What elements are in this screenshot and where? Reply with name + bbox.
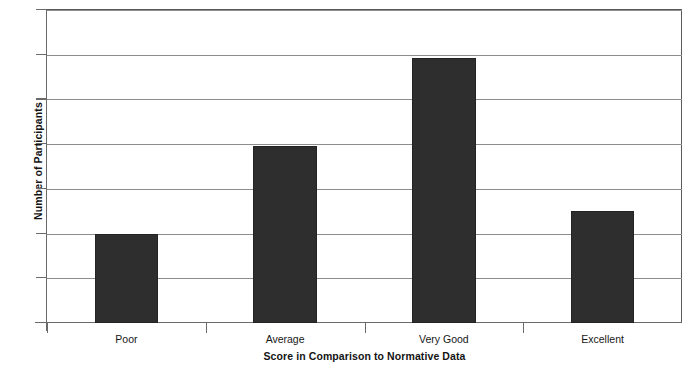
x-tick-label: Poor xyxy=(56,333,196,345)
y-tick-mark xyxy=(36,233,47,234)
y-tick-mark xyxy=(36,277,47,278)
x-tick-mark xyxy=(47,322,48,333)
bar xyxy=(412,58,476,323)
x-axis-title: Score in Comparison to Normative Data xyxy=(47,350,682,362)
gridline xyxy=(47,10,682,11)
y-tick-mark xyxy=(36,188,47,189)
gridline xyxy=(47,99,682,100)
y-tick-mark xyxy=(36,322,47,323)
bar-chart-figure: Number of Participants 02468101214 PoorA… xyxy=(0,0,688,368)
gridline xyxy=(47,144,682,145)
x-tick-mark xyxy=(206,322,207,333)
x-tick-mark xyxy=(365,322,366,333)
y-tick-mark xyxy=(36,9,47,10)
x-tick-label: Very Good xyxy=(374,333,514,345)
x-tick-mark xyxy=(523,322,524,333)
y-tick-mark xyxy=(36,54,47,55)
y-axis-title: Number of Participants xyxy=(32,61,44,261)
bar xyxy=(95,234,159,323)
plot-area xyxy=(47,9,682,322)
cropped-chart-title xyxy=(47,0,682,5)
gridline xyxy=(47,55,682,56)
bar xyxy=(571,211,635,323)
gridline xyxy=(47,189,682,190)
bar xyxy=(253,146,317,323)
y-tick-mark xyxy=(36,98,47,99)
y-tick-mark xyxy=(36,143,47,144)
x-tick-label: Average xyxy=(215,333,355,345)
x-tick-label: Excellent xyxy=(533,333,673,345)
